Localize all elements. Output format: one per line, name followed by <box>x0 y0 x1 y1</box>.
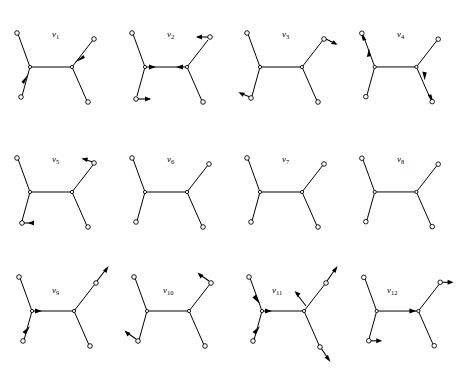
leaf-node <box>316 225 321 230</box>
branch-lower-left <box>369 311 377 340</box>
leaf-node <box>130 156 135 161</box>
tree-diagram-v12 <box>345 256 460 376</box>
leaf-node <box>367 339 372 344</box>
branch-upper-left <box>133 34 145 67</box>
arrow-head-upper-left-up <box>367 49 371 57</box>
branch-lower-left <box>137 67 145 96</box>
internal-node-right <box>185 190 188 193</box>
tree-cell-v9: v9 <box>0 256 115 376</box>
arrow-head-upper-right-upleft <box>198 273 204 279</box>
internal-node-left <box>373 65 376 68</box>
leaf-node <box>316 100 321 105</box>
leaf-node <box>432 343 437 348</box>
tree-label-v11: v11 <box>272 286 282 295</box>
arrow-lower-left-inward <box>21 75 28 84</box>
leaf-node <box>17 275 22 280</box>
leaf-node <box>324 281 329 286</box>
internal-node-left <box>28 190 31 193</box>
tree-label-v10: v10 <box>163 286 174 295</box>
internal-node-left <box>375 309 378 312</box>
tree-diagram-v2 <box>115 0 230 120</box>
leaf-node <box>209 281 214 286</box>
leaf-node <box>21 339 26 344</box>
leaf-node <box>322 162 327 167</box>
leaf-node <box>362 275 367 280</box>
tree-label-subscript: 7 <box>286 158 289 165</box>
internal-node-right <box>185 65 188 68</box>
leaf-node <box>208 35 213 40</box>
branch-lower-right <box>304 311 319 345</box>
leaf-node <box>92 37 97 42</box>
tree-label-v12: v12 <box>387 286 398 295</box>
branch-lower-left <box>24 311 32 340</box>
branch-lower-right <box>72 192 87 226</box>
branch-upper-right <box>72 40 93 67</box>
tree-diagram-v3 <box>230 0 345 120</box>
leaf-node <box>134 97 139 102</box>
tree-cell-v8: v8 <box>345 125 460 245</box>
internal-node-right <box>415 190 418 193</box>
internal-node-left <box>145 309 148 312</box>
arrow-head-internal-right <box>409 309 416 314</box>
arrow-head-upper-right <box>82 158 89 163</box>
arrow-upper-right-inward <box>75 55 85 63</box>
tree-figure-grid: v1 <box>0 0 461 376</box>
tree-diagram-v1 <box>0 0 115 120</box>
tree-cell-v7: v7 <box>230 125 345 245</box>
leaf-node <box>130 31 135 36</box>
tree-label-v5: v5 <box>52 155 59 164</box>
internal-node-right <box>415 65 418 68</box>
tree-label-subscript: 1 <box>56 33 59 40</box>
tree-label-v6: v6 <box>167 155 174 164</box>
branch-upper-left <box>133 159 145 192</box>
branch-lower-left <box>22 192 30 221</box>
leaf-node <box>436 162 441 167</box>
leaf-node <box>201 225 206 230</box>
tree-label-v2: v2 <box>167 30 174 39</box>
internal-node-right <box>70 190 73 193</box>
tree-diagram-v5 <box>0 125 115 245</box>
branch-upper-left <box>365 278 377 311</box>
branch-lower-left <box>252 67 260 96</box>
leaf-node <box>245 156 250 161</box>
internal-node-left <box>28 65 31 68</box>
internal-node-right <box>187 309 190 312</box>
leaf-node <box>92 161 97 166</box>
branch-upper-left <box>248 34 260 67</box>
internal-node-left <box>143 190 146 193</box>
arrow-head-lower-left-up <box>253 326 261 335</box>
branch-upper-right <box>187 40 208 67</box>
branch-lower-left <box>254 311 262 340</box>
branch-upper-left <box>20 278 32 311</box>
tree-diagram-v6 <box>115 125 230 245</box>
leaf-node <box>247 275 252 280</box>
arrow-head-lower-left-right <box>145 97 151 102</box>
branch-lower-left <box>367 192 375 221</box>
branch-upper-left <box>135 278 147 311</box>
branch-lower-right <box>302 67 317 101</box>
branch-upper-right <box>304 284 325 311</box>
leaf-node <box>430 99 435 104</box>
internal-node-left <box>143 65 146 68</box>
tree-label-v9: v9 <box>52 286 59 295</box>
branch-lower-right <box>302 192 317 226</box>
branch-lower-left <box>367 67 375 96</box>
leaf-node <box>201 100 206 105</box>
internal-node-right <box>417 309 420 312</box>
branch-upper-right <box>416 165 437 192</box>
leaf-node <box>438 280 443 285</box>
arrow-head-upper-right-right <box>448 280 454 285</box>
tree-label-v3: v3 <box>282 30 289 39</box>
internal-node-right <box>300 65 303 68</box>
tree-diagram-v11 <box>230 256 345 376</box>
tree-label-subscript: 6 <box>171 158 174 165</box>
internal-node-right <box>300 190 303 193</box>
leaf-node <box>249 96 254 101</box>
branch-upper-right <box>72 165 93 192</box>
leaf-node <box>322 37 327 42</box>
tree-label-subscript: 5 <box>56 158 59 165</box>
arrow-head-internal-right <box>149 65 156 70</box>
leaf-node <box>360 31 365 36</box>
leaf-node <box>207 162 212 167</box>
leaf-node <box>245 31 250 36</box>
